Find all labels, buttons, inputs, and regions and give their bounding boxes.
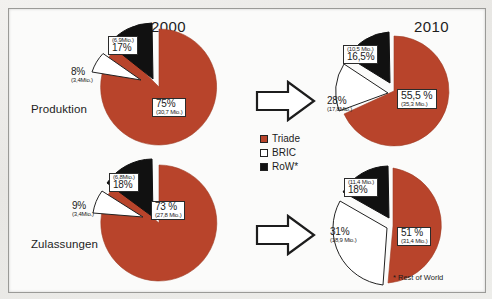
legend-label-triade: Triade bbox=[272, 133, 300, 144]
label-triade-produktion-2010: 55,5 % (35,3 Mio.) bbox=[397, 89, 437, 109]
label-row-produktion-2000: (6,9Mio.) 17% bbox=[108, 36, 138, 55]
slice-triade-zulassungen-2010 bbox=[388, 168, 441, 283]
arrow-right-icon-top bbox=[255, 79, 317, 127]
label-row-zulassungen-2000: (6,8Mio.) 18% bbox=[109, 173, 139, 192]
label-bric-zulassungen-2000: 9% (3,4Mio.) bbox=[69, 201, 97, 218]
legend-item-row[interactable]: RoW* bbox=[260, 160, 300, 173]
label-row-produktion-2010: (10,5 Mio.) 16,5% bbox=[343, 45, 378, 64]
label-bric-zulassungen-2010: 31% (18,9 Mio.) bbox=[327, 227, 359, 244]
legend-swatch-bric-icon bbox=[260, 149, 268, 157]
legend-swatch-row-icon bbox=[260, 163, 268, 171]
label-row-zulassungen-2010: (11,4 Mio.) 18% bbox=[344, 178, 378, 197]
label-triade-zulassungen-2010: 51 % (31,4 Mio.) bbox=[397, 227, 431, 246]
legend-item-triade[interactable]: Triade bbox=[260, 132, 300, 145]
label-bric-produktion-2000: 8% (3,4Mio.) bbox=[68, 67, 96, 84]
label-triade-produktion-2000: 75% (30,7 Mio.) bbox=[152, 98, 186, 117]
scanned-page-background: 2000 2010 Produktion Zulassungen (6,9Mio… bbox=[0, 0, 492, 299]
legend-label-bric: BRIC bbox=[272, 147, 296, 158]
chart-area: 2000 2010 Produktion Zulassungen (6,9Mio… bbox=[9, 9, 485, 292]
legend: Triade BRIC RoW* bbox=[260, 132, 300, 174]
arrow-right-icon-bottom bbox=[255, 213, 317, 261]
label-triade-zulassungen-2000: 73 % (27,8 Mio.) bbox=[151, 201, 185, 220]
legend-item-bric[interactable]: BRIC bbox=[260, 146, 300, 159]
label-bric-produktion-2010: 28% (17,8Mio.) bbox=[324, 96, 355, 113]
row-label-zulassungen: Zulassungen bbox=[31, 238, 98, 250]
legend-label-row: RoW* bbox=[272, 161, 298, 172]
row-label-produktion: Produktion bbox=[31, 103, 87, 115]
legend-swatch-triade-icon bbox=[260, 135, 268, 143]
footnote-rest-of-world: * Rest of World bbox=[393, 273, 443, 282]
figure-sheet: 2000 2010 Produktion Zulassungen (6,9Mio… bbox=[8, 8, 486, 293]
